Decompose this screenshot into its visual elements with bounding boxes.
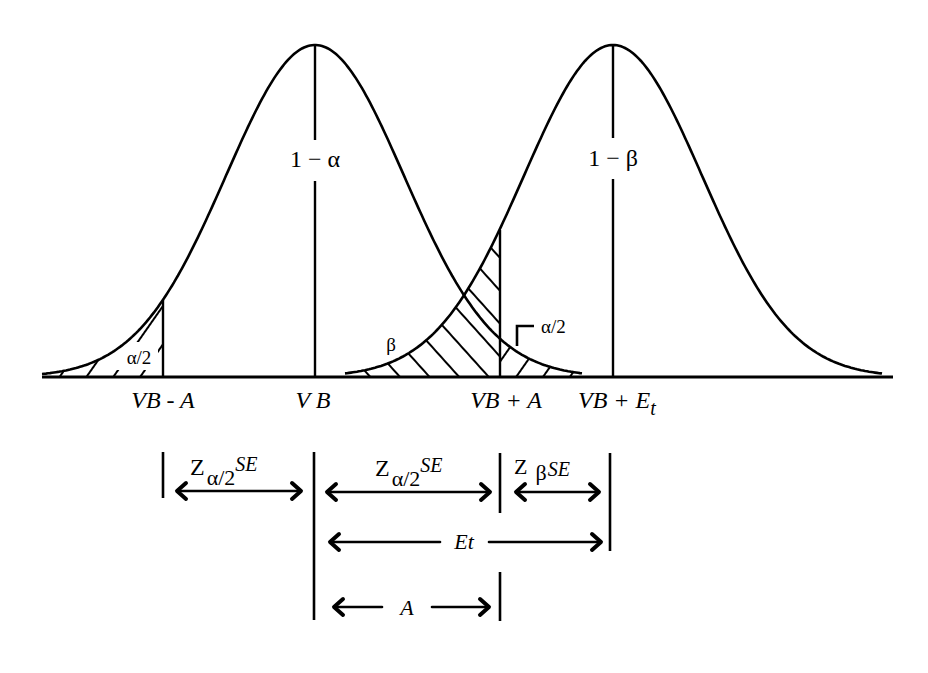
z-beta-label: ZβSE <box>514 454 570 485</box>
right-alpha-pointer-bracket <box>517 326 534 346</box>
vb-plus-et-label: VB + Et <box>578 387 656 419</box>
one-minus-alpha-label: 1 − α <box>290 146 341 172</box>
z-alpha-left-arrow <box>177 483 301 499</box>
a-label: A <box>398 595 414 620</box>
beta-region-label: β <box>386 334 396 355</box>
one-minus-beta-label: 1 − β <box>588 145 638 171</box>
vb-label: V B <box>296 387 331 413</box>
vb-minus-a-label: VB - A <box>131 387 195 413</box>
z-beta-arrow <box>516 484 599 500</box>
power-diagram: 1 − α 1 − β α/2 β α/2 VB - A V B VB + A … <box>0 0 928 673</box>
z-alpha-right-label: Zα/2SE <box>375 454 443 491</box>
z-alpha-left-label: Zα/2SE <box>190 453 258 490</box>
et-label: Et <box>453 529 474 554</box>
right-alpha-half-label: α/2 <box>541 316 566 337</box>
left-alpha-half-label: α/2 <box>127 347 152 368</box>
vb-plus-a-label: VB + A <box>470 387 542 413</box>
